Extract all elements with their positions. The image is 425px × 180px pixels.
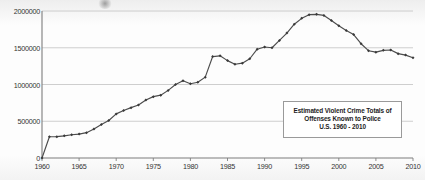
x-tick-label: 1975 xyxy=(133,162,173,171)
x-tick-label: 2000 xyxy=(319,162,359,171)
data-point-marker xyxy=(211,55,214,58)
y-tick-label: 1500000 xyxy=(0,44,40,53)
x-tick-label: 1960 xyxy=(22,162,62,171)
y-tick-label: 1000000 xyxy=(0,81,40,90)
x-tick-label: 2005 xyxy=(356,162,396,171)
x-tick-label: 1985 xyxy=(208,162,248,171)
data-point-marker xyxy=(41,157,44,160)
x-tick-label: 1990 xyxy=(245,162,285,171)
data-point-marker xyxy=(48,135,51,138)
annotation-line-1: Estimated Violent Crime Totals of xyxy=(293,108,391,115)
data-point-marker xyxy=(315,13,318,16)
annotation-line-2: Offenses Known to Police xyxy=(304,116,380,123)
scan-smudge-icon xyxy=(98,0,112,9)
x-tick-label: 1995 xyxy=(282,162,322,171)
x-tick-label: 2010 xyxy=(393,162,425,171)
data-point-marker xyxy=(78,133,81,136)
data-point-marker xyxy=(130,106,133,109)
data-point-marker xyxy=(412,56,415,59)
chart-figure: 2000000 1500000 1000000 500000 0 1960 19… xyxy=(0,0,425,180)
data-point-marker xyxy=(404,54,407,57)
chart-annotation-box: Estimated Violent Crime Totals of Offens… xyxy=(283,101,402,138)
x-tick-label: 1965 xyxy=(59,162,99,171)
x-tick-label: 1980 xyxy=(170,162,210,171)
data-point-marker xyxy=(70,133,73,136)
annotation-line-3: U.S. 1960 - 2010 xyxy=(319,124,366,131)
data-point-marker xyxy=(55,135,58,138)
y-tick-label: 500000 xyxy=(0,117,40,126)
x-tick-label: 1970 xyxy=(96,162,136,171)
data-point-marker xyxy=(374,51,377,54)
y-tick-label: 2000000 xyxy=(0,7,40,16)
data-point-marker xyxy=(382,49,385,52)
data-point-marker xyxy=(63,134,66,137)
